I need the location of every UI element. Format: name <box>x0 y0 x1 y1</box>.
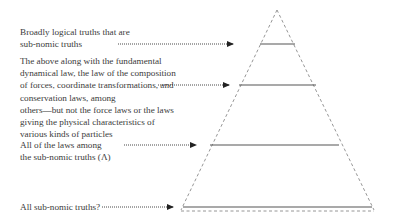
label-line: others—but not the force laws or the law… <box>20 104 176 116</box>
label-line: All of the laws among <box>20 139 111 151</box>
label-line: dynamical law, the law of the compositio… <box>20 67 176 79</box>
level-lines <box>183 44 372 207</box>
label-line: giving the physical characteristics of <box>20 116 176 128</box>
label-line: All sub-nomic truths? <box>20 201 100 213</box>
label-line: The above along with the fundamental <box>20 55 176 67</box>
label-level-3: All of the laws among the sub-nomic trut… <box>20 139 111 163</box>
label-level-1: Broadly logical truths that are sub-nomi… <box>20 26 130 50</box>
label-line: conservation laws, among <box>20 92 176 104</box>
label-line: Broadly logical truths that are <box>20 26 130 38</box>
label-line: the sub-nomic truths (Λ) <box>20 151 111 163</box>
label-line: of forces, coordinate transformations, a… <box>20 79 176 91</box>
triangle-outline <box>181 10 374 211</box>
label-level-4: All sub-nomic truths? <box>20 201 100 213</box>
label-level-2: The above along with the fundamental dyn… <box>20 55 176 140</box>
label-line: sub-nomic truths <box>20 38 130 50</box>
